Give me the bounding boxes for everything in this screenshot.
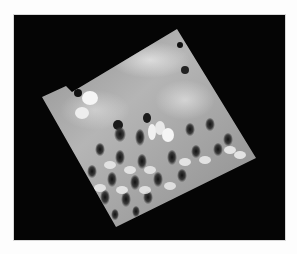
surface-topography-image bbox=[0, 0, 297, 254]
surface bbox=[30, 20, 270, 235]
